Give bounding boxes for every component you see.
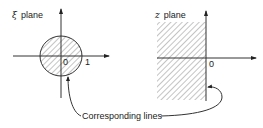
xi-unit-label: 1 (85, 57, 90, 67)
z-origin-label: 0 (209, 59, 214, 69)
xi-plane-label: ξplane (12, 10, 43, 20)
xi-origin-label: 0 (63, 57, 68, 67)
z-plane: zplane 0 (154, 10, 256, 101)
xi-plane: ξplane 0 1 (12, 9, 109, 98)
z-plane-label: zplane (154, 10, 186, 20)
mapping-diagram: ξplane 0 1 zplane 0 Corresponding lines (0, 0, 263, 128)
left-pointer-arrow (68, 77, 81, 116)
annotation-text: Corresponding lines (82, 111, 163, 121)
left-half-plane-region (157, 22, 206, 100)
